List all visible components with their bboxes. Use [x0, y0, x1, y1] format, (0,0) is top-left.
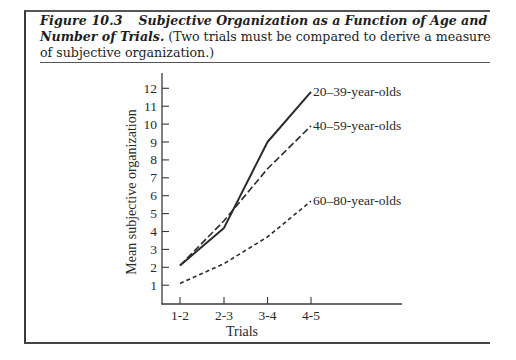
x-tick-label: 4-5: [302, 308, 320, 323]
x-axis-title: Trials: [226, 324, 258, 339]
y-tick-label: 1: [150, 278, 157, 293]
y-tick-label: 8: [150, 152, 157, 167]
series-label: 60–80-year-olds: [313, 193, 401, 208]
y-tick-label: 11: [144, 99, 157, 114]
series-line-0: [180, 92, 311, 266]
y-tick-label: 3: [150, 242, 157, 257]
y-ticks: 123456789101112: [144, 81, 170, 293]
x-ticks: 1-22-33-44-5: [171, 297, 320, 323]
chart-axes: [162, 73, 403, 305]
series-label: 20–39-year-olds: [313, 84, 401, 99]
y-tick-label: 2: [150, 260, 157, 275]
y-tick-label: 12: [144, 81, 158, 96]
y-tick-label: 6: [150, 188, 157, 203]
y-tick-label: 9: [150, 135, 157, 150]
series-line-1: [180, 126, 311, 266]
y-tick-label: 4: [150, 224, 157, 239]
line-chart: 123456789101112 1-22-33-44-5 20–39-year-…: [0, 0, 516, 360]
y-tick-label: 5: [150, 206, 157, 221]
x-tick-label: 1-2: [171, 308, 189, 323]
y-tick-label: 7: [150, 170, 157, 185]
series-lines: [180, 92, 311, 284]
series-line-2: [180, 201, 311, 283]
y-tick-label: 10: [144, 117, 158, 132]
x-tick-label: 3-4: [259, 308, 277, 323]
x-tick-label: 2-3: [215, 308, 233, 323]
y-axis-title: Mean subjective organization: [124, 109, 139, 274]
series-labels: 20–39-year-olds40–59-year-olds60–80-year…: [313, 84, 401, 208]
series-label: 40–59-year-olds: [313, 118, 401, 133]
